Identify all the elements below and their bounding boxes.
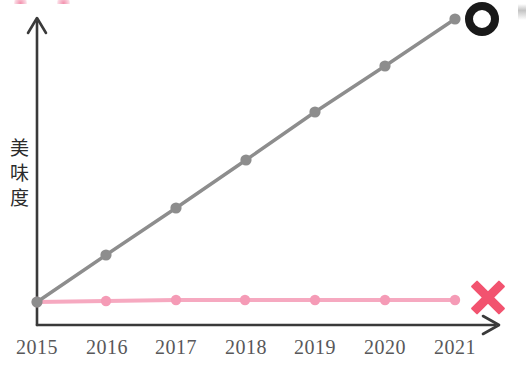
data-point xyxy=(240,154,251,165)
edge-artifact-left xyxy=(14,0,27,4)
data-point xyxy=(100,249,111,260)
data-point xyxy=(240,295,250,305)
series-flat xyxy=(32,295,460,307)
y-axis-label-char: 度 xyxy=(6,186,32,211)
y-axis-label: 美味度 xyxy=(6,136,32,211)
y-axis-label-char: 味 xyxy=(6,161,32,186)
edge-artifact-right xyxy=(518,4,526,20)
circle-mark-icon xyxy=(465,2,499,36)
x-tick-2017: 2017 xyxy=(148,336,204,359)
data-point xyxy=(380,295,390,305)
data-point xyxy=(310,295,320,305)
data-point xyxy=(379,60,390,71)
x-axis xyxy=(37,316,499,334)
y-axis-label-char: 美 xyxy=(6,136,32,161)
data-point xyxy=(449,13,460,24)
data-point xyxy=(309,106,320,117)
edge-artifact-mid xyxy=(57,0,70,4)
x-tick-2019: 2019 xyxy=(287,336,343,359)
x-tick-2020: 2020 xyxy=(357,336,413,359)
x-tick-2018: 2018 xyxy=(218,336,274,359)
data-point xyxy=(101,296,111,306)
cross-mark-icon xyxy=(468,277,508,317)
chart-canvas xyxy=(0,0,529,371)
data-point xyxy=(171,295,181,305)
series-rising xyxy=(31,13,460,307)
data-point xyxy=(450,295,460,305)
x-tick-2016: 2016 xyxy=(79,336,135,359)
data-point xyxy=(170,202,181,213)
x-tick-2021: 2021 xyxy=(427,336,483,359)
x-tick-2015: 2015 xyxy=(9,336,65,359)
data-point xyxy=(31,296,42,307)
